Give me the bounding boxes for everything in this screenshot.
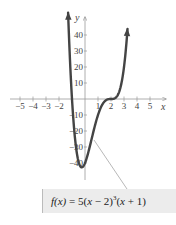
x-tick-label: −4 — [28, 101, 38, 111]
y-tick-label: 40 — [74, 30, 84, 40]
x-tick-label: 4 — [135, 101, 140, 111]
x-tick-label: 5 — [148, 101, 153, 111]
formula-part: − 2) — [92, 195, 113, 207]
x-tick-label: −2 — [54, 101, 64, 111]
y-tick-label: 10 — [74, 78, 84, 88]
x-tick-label: −3 — [41, 101, 51, 111]
x-tick-label: 3 — [122, 101, 127, 111]
y-tick-label: −10 — [69, 110, 84, 120]
formula-text: f(x) = 5(x − 2)3(x + 1) — [51, 194, 146, 207]
formula-part: = 5( — [66, 195, 87, 207]
formula-part: + 1) — [125, 195, 146, 207]
y-tick-label: 30 — [74, 46, 84, 56]
formula-box: f(x) = 5(x − 2)3(x + 1) — [42, 189, 176, 213]
x-tick-label: −5 — [15, 101, 25, 111]
y-tick-label: 20 — [74, 62, 84, 72]
y-axis-label: y — [74, 12, 80, 23]
curve-arrow-left — [65, 12, 71, 20]
x-tick-label: 2 — [109, 101, 114, 111]
x-axis-label: x — [160, 101, 166, 112]
annotation-leader-line — [94, 140, 127, 189]
y-tick-label: −20 — [69, 126, 84, 136]
x-tick-labels: −5−4−3−212345 — [15, 101, 153, 111]
formula-lhs: f(x) — [51, 195, 66, 207]
curve-arrow-right — [124, 28, 130, 36]
